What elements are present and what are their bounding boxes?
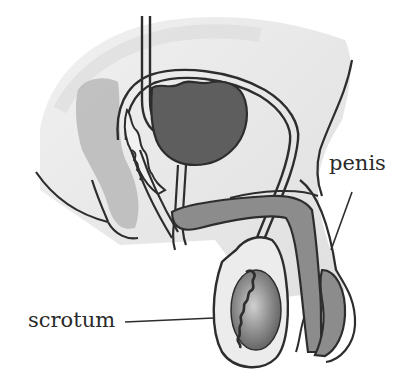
penis-leader-line bbox=[331, 192, 352, 250]
anatomy-diagram: penis scrotum bbox=[0, 0, 401, 383]
scrotum-label: scrotum bbox=[28, 310, 115, 331]
penis-label: penis bbox=[329, 153, 386, 174]
scrotum-leader-line bbox=[125, 318, 214, 322]
